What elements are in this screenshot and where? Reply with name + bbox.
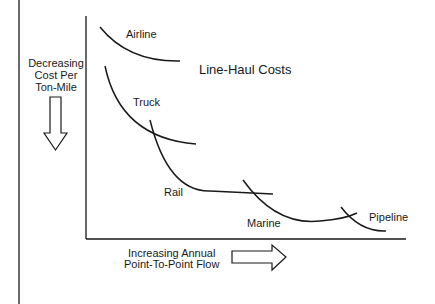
marine-curve: [243, 180, 357, 221]
airline-label: Airline: [126, 28, 157, 40]
right-arrow-icon: [232, 245, 286, 270]
pipeline-label: Pipeline: [369, 211, 408, 223]
x-axis-label: Increasing Annual Point-To-Point Flow: [124, 248, 219, 270]
truck-label: Truck: [133, 96, 160, 108]
chart-title: Line-Haul Costs: [199, 64, 292, 76]
down-arrow-icon: [44, 97, 67, 150]
y-axis-label: Decreasing Cost Per Ton-Mile: [16, 57, 96, 93]
rail-curve: [150, 120, 273, 194]
y-axis-label-line: Cost Per: [16, 69, 96, 81]
x-axis-label-line: Point-To-Point Flow: [124, 259, 219, 270]
marine-label: Marine: [247, 217, 281, 229]
y-axis-label-line: Ton-Mile: [16, 81, 96, 93]
rail-label: Rail: [164, 186, 183, 198]
y-axis-label-line: Decreasing: [16, 57, 96, 69]
